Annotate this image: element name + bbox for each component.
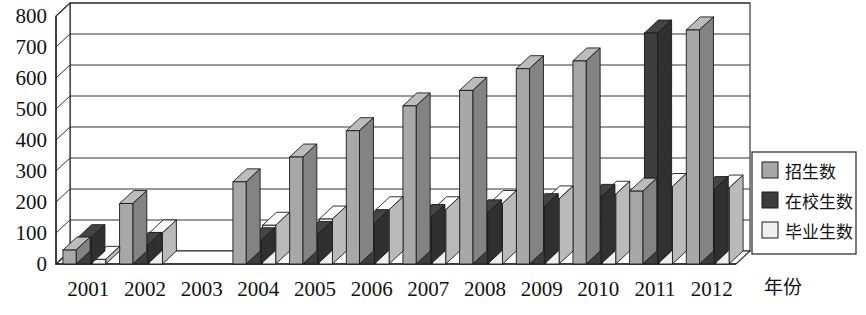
x-axis-label: 2003 <box>181 277 223 301</box>
bar-side <box>529 56 543 264</box>
chart-canvas: 0100200300400500600700800200120022003200… <box>0 0 866 315</box>
legend-label-2: 毕业生数 <box>785 222 853 242</box>
y-axis-label: 100 <box>16 221 48 245</box>
x-axis-label: 2004 <box>237 277 280 301</box>
bar-side <box>714 177 728 264</box>
x-axis-label: 2006 <box>351 277 393 301</box>
x-axis-label: 2008 <box>464 277 506 301</box>
bar-front <box>120 204 133 264</box>
bar-2009-招生数 <box>516 56 543 264</box>
bar-front <box>573 61 586 264</box>
y-axis-label: 800 <box>16 4 48 28</box>
bar-chart: 0100200300400500600700800200120022003200… <box>0 0 866 315</box>
bar-2012-招生数 <box>686 17 713 264</box>
bar-side <box>586 48 600 264</box>
bar-side <box>416 93 430 264</box>
legend-label-1: 在校生数 <box>785 192 853 212</box>
x-axis-label: 2009 <box>521 277 563 301</box>
bar-side <box>672 174 686 265</box>
bar-2004-招生数 <box>233 169 260 264</box>
x-axis-label: 2010 <box>577 277 619 301</box>
bar-side <box>616 181 630 264</box>
x-axis-label: 2001 <box>67 277 109 301</box>
y-axis-label: 600 <box>16 66 48 90</box>
bar-side <box>544 194 558 264</box>
y-axis-label: 200 <box>16 190 48 214</box>
bar-side <box>246 169 260 264</box>
bar-front <box>686 30 699 264</box>
bar-2005-招生数 <box>290 144 317 264</box>
y-axis-label: 400 <box>16 128 48 152</box>
bar-side <box>643 178 657 264</box>
bar-front <box>630 191 643 264</box>
bar-side <box>699 17 713 264</box>
bar-side <box>303 144 317 264</box>
bar-side <box>359 118 373 264</box>
y-axis-label: 700 <box>16 35 48 59</box>
bar-front <box>460 90 473 264</box>
legend-swatch-1 <box>762 192 778 208</box>
bar-front <box>516 69 529 264</box>
legend-label-0: 招生数 <box>785 162 836 182</box>
y-axis-label: 0 <box>37 252 48 276</box>
bar-2010-招生数 <box>573 48 600 264</box>
bar-front <box>346 131 359 264</box>
bar-side <box>473 77 487 264</box>
bar-side <box>601 184 615 264</box>
x-axis-label: 2005 <box>294 277 336 301</box>
bar-2006-招生数 <box>346 118 373 264</box>
bar-2002-招生数 <box>120 191 147 264</box>
bar-side <box>658 20 672 264</box>
bar-side <box>502 191 516 264</box>
x-axis-label: 2002 <box>124 277 166 301</box>
x-axis-title: 年份 <box>764 276 802 298</box>
y-axis-label: 300 <box>16 159 48 183</box>
bar-front <box>290 157 303 264</box>
bar-2007-招生数 <box>403 93 430 264</box>
bar-2008-招生数 <box>460 77 487 264</box>
bar-side <box>729 175 743 264</box>
x-axis-label: 2007 <box>407 277 449 301</box>
bar-front <box>403 106 416 264</box>
bar-side <box>559 186 573 264</box>
legend-swatch-2 <box>762 222 778 238</box>
x-axis-label: 2011 <box>634 277 675 301</box>
bar-2011-招生数 <box>630 178 657 264</box>
bar-side <box>133 191 147 264</box>
bar-front <box>63 250 76 264</box>
y-axis-label: 500 <box>16 97 48 121</box>
x-axis-label: 2012 <box>691 277 733 301</box>
legend-swatch-0 <box>762 162 778 178</box>
bar-front <box>233 182 246 264</box>
